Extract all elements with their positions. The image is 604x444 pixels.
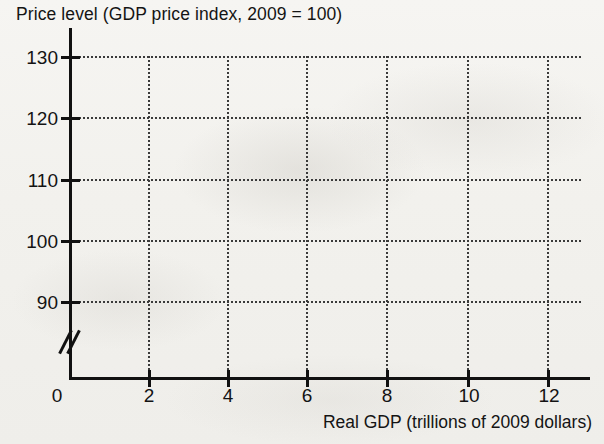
x-tick-label-6: 6	[287, 385, 327, 407]
y-tick-label-120-wrap: 120	[0, 109, 58, 128]
y-tick-100	[61, 240, 80, 243]
y-tick-110	[61, 179, 80, 182]
x-tick-label-4: 4	[208, 385, 248, 407]
y-tick-label-90-wrap: 90	[0, 293, 58, 312]
y-tick-130	[61, 56, 80, 59]
chart-canvas: Price level (GDP price index, 2009 = 100…	[0, 0, 604, 444]
y-tick-label-110: 110	[0, 171, 58, 190]
gridline-vertical-4	[227, 55, 229, 373]
y-tick-120	[61, 117, 80, 120]
gridline-horizontal-130	[74, 56, 582, 58]
x-tick-label-10: 10	[449, 385, 489, 407]
x-tick-label-2: 2	[129, 385, 169, 407]
x-axis-title: Real GDP (trillions of 2009 dollars)	[323, 412, 592, 433]
y-tick-label-130: 130	[0, 48, 58, 67]
gridline-vertical-8	[386, 55, 388, 373]
y-tick-label-130-wrap: 130	[0, 48, 58, 67]
y-tick-label-110-wrap: 110	[0, 171, 58, 190]
gridline-horizontal-100	[74, 240, 582, 242]
gridline-horizontal-90	[74, 301, 582, 303]
gridline-vertical-6	[306, 55, 308, 373]
x-tick-label-8: 8	[367, 385, 407, 407]
x-tick-label-0: 0	[37, 385, 77, 407]
y-tick-label-100: 100	[0, 232, 58, 251]
gridline-horizontal-120	[74, 117, 582, 119]
gridline-vertical-12	[547, 55, 549, 373]
y-tick-90	[61, 301, 80, 304]
gridline-vertical-10	[467, 55, 469, 373]
gridline-vertical-2	[148, 55, 150, 373]
y-tick-label-90: 90	[0, 293, 58, 312]
y-tick-label-100-wrap: 100	[0, 232, 58, 251]
chart-title: Price level (GDP price index, 2009 = 100…	[16, 4, 342, 25]
x-tick-label-12: 12	[529, 385, 569, 407]
y-tick-label-120: 120	[0, 109, 58, 128]
gridline-horizontal-110	[74, 179, 582, 181]
y-axis-break-icon	[58, 326, 86, 360]
